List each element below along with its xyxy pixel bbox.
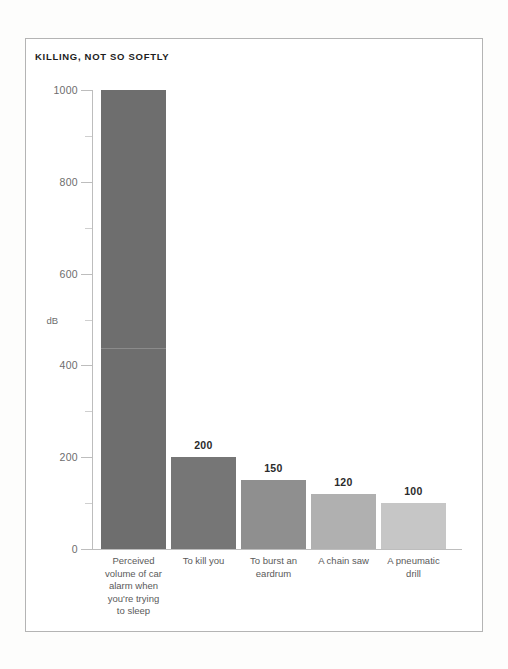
bar-a-pneumatic-drill[interactable]: 100 bbox=[381, 503, 446, 549]
bar-value-label-3: 120 bbox=[334, 476, 353, 488]
y-tick-label-800: 800 bbox=[60, 176, 78, 188]
x-category-label-1: To kill you bbox=[163, 555, 244, 568]
y-axis-line bbox=[92, 90, 93, 549]
y-tick-minor-900 bbox=[85, 136, 92, 137]
plot-area: dB 0 200 400 600 800 1000 200 150 1 bbox=[92, 90, 462, 549]
chart-title: KILLING, NOT SO SOFTLY bbox=[35, 51, 169, 62]
y-tick-label-0: 0 bbox=[72, 543, 78, 555]
x-category-label-0: Perceived volume of car alarm when you'r… bbox=[93, 555, 174, 618]
y-tick-major-600 bbox=[81, 274, 92, 275]
bar-value-label-2: 150 bbox=[264, 462, 283, 474]
x-category-label-3: A chain saw bbox=[303, 555, 384, 568]
x-category-line: To kill you bbox=[163, 555, 244, 568]
y-tick-minor-500 bbox=[85, 320, 92, 321]
x-category-line: Perceived bbox=[93, 555, 174, 568]
y-tick-label-200: 200 bbox=[60, 451, 78, 463]
x-category-line: volume of car bbox=[93, 568, 174, 581]
y-tick-major-800 bbox=[81, 182, 92, 183]
bar-to-burst-an-eardrum[interactable]: 150 bbox=[241, 480, 306, 549]
y-tick-minor-100 bbox=[85, 503, 92, 504]
x-category-line: alarm when bbox=[93, 580, 174, 593]
x-category-label-2: To burst an eardrum bbox=[233, 555, 314, 580]
x-category-line: you're trying bbox=[93, 593, 174, 606]
x-axis-baseline bbox=[92, 549, 462, 550]
bar-value-label-4: 100 bbox=[404, 485, 423, 497]
x-category-line: A pneumatic bbox=[373, 555, 454, 568]
bar-a-chain-saw[interactable]: 120 bbox=[311, 494, 376, 549]
x-category-label-4: A pneumatic drill bbox=[373, 555, 454, 580]
bar-perceived-volume-of-car-alarm[interactable] bbox=[101, 90, 166, 549]
y-tick-major-200 bbox=[81, 457, 92, 458]
x-category-line: eardrum bbox=[233, 568, 314, 581]
bar-scan-seam bbox=[101, 348, 166, 349]
y-tick-minor-700 bbox=[85, 228, 92, 229]
x-category-line: drill bbox=[373, 568, 454, 581]
y-tick-label-600: 600 bbox=[60, 268, 78, 280]
bar-value-label-1: 200 bbox=[194, 439, 213, 451]
bar-to-kill-you[interactable]: 200 bbox=[171, 457, 236, 549]
chart-panel: KILLING, NOT SO SOFTLY dB 0 200 400 600 … bbox=[25, 38, 483, 632]
x-category-line: A chain saw bbox=[303, 555, 384, 568]
y-tick-minor-300 bbox=[85, 411, 92, 412]
y-axis-title: dB bbox=[46, 314, 58, 325]
x-category-line: to sleep bbox=[93, 605, 174, 618]
y-tick-label-400: 400 bbox=[60, 359, 78, 371]
y-tick-major-0 bbox=[81, 549, 92, 550]
y-tick-major-400 bbox=[81, 365, 92, 366]
x-category-line: To burst an bbox=[233, 555, 314, 568]
y-tick-label-1000: 1000 bbox=[53, 84, 78, 96]
y-tick-major-1000 bbox=[81, 90, 92, 91]
